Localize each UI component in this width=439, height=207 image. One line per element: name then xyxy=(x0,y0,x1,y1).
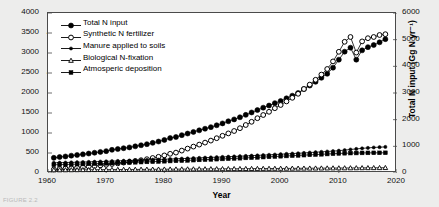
legend-item-label: Total N input xyxy=(82,19,127,27)
x-axis-tick-label: 1990 xyxy=(202,177,242,185)
x-axis-tick-label: 1980 xyxy=(143,177,183,185)
legend-item: Biological N-fixation xyxy=(60,52,165,64)
legend-item-label: Biological N-fixation xyxy=(82,54,153,62)
figure-container: 05001000150020002500300035004000 0100020… xyxy=(0,0,439,207)
chart-legend: Total N inputSynthetic N fertilizerManur… xyxy=(60,17,165,75)
x-axis-tick-label: 2000 xyxy=(260,177,300,185)
x-axis-tick-label: 1970 xyxy=(85,177,125,185)
filled-circle-icon xyxy=(60,17,82,28)
y-axis-left-tick-label: 0 xyxy=(5,168,39,176)
x-axis-title: Year xyxy=(47,190,396,200)
open-triangle-icon xyxy=(60,52,82,63)
figure-caption: FIGURE 2.2 xyxy=(3,197,38,203)
y-axis-left-tick-label: 3500 xyxy=(5,28,39,36)
legend-item-label: Manure applied to soils xyxy=(82,42,165,50)
legend-item: Synthetic N fertilizer xyxy=(60,29,165,41)
x-axis-tick-label: 2020 xyxy=(376,177,416,185)
legend-item-label: Synthetic N fertilizer xyxy=(82,30,154,38)
legend-item: Total N input xyxy=(60,17,165,29)
y-axis-left-tick-label: 2000 xyxy=(5,88,39,96)
y-axis-left-tick-label: 500 xyxy=(5,148,39,156)
legend-item-label: Atmosperic deposition xyxy=(82,65,162,73)
y-axis-left-tick-label: 2500 xyxy=(5,68,39,76)
filled-square-icon xyxy=(60,64,82,75)
legend-item: Atmosperic deposition xyxy=(60,63,165,75)
small-filled-circle-icon xyxy=(60,40,82,51)
x-axis-tick-label: 1960 xyxy=(27,177,67,185)
y-axis-left-tick-label: 1000 xyxy=(5,128,39,136)
y-axis-right-tick-label: 0 xyxy=(402,168,436,176)
open-circle-icon xyxy=(60,29,82,40)
legend-item: Manure applied to soils xyxy=(60,40,165,52)
x-axis-tick-label: 2010 xyxy=(318,177,358,185)
y-axis-left-tick-label: 3000 xyxy=(5,48,39,56)
y-axis-left-tick-label: 4000 xyxy=(5,8,39,16)
y-axis-left-tick-label: 1500 xyxy=(5,108,39,116)
y-axis-right-title: Total N input (Gg N yr⁻¹) xyxy=(407,0,417,144)
